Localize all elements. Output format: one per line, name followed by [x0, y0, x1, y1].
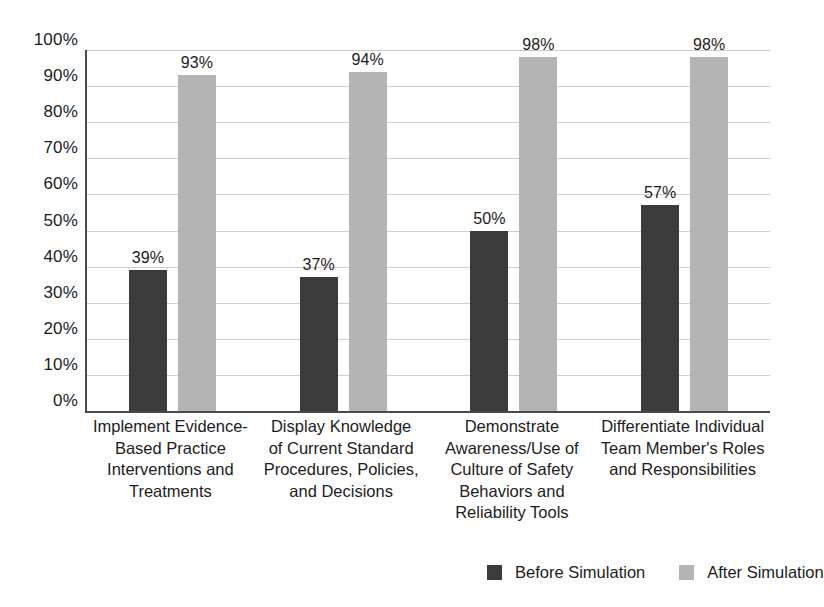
bar-before-simulation[interactable]: 39%: [129, 270, 167, 411]
bar-group: 50%98%: [429, 50, 600, 411]
bar-after-simulation[interactable]: 98%: [690, 57, 728, 411]
legend-item[interactable]: After Simulation: [679, 563, 823, 581]
y-axis-tick-label: 90%: [0, 66, 78, 86]
bar-before-simulation[interactable]: 37%: [300, 277, 338, 411]
y-axis: 0%10%20%30%40%50%60%70%80%90%100%: [0, 40, 78, 422]
legend-label: Before Simulation: [515, 563, 645, 581]
x-axis-category-label: DemonstrateAwareness/Use ofCulture of Sa…: [427, 416, 598, 524]
y-axis-tick-label: 30%: [0, 283, 78, 303]
bar-value-label: 37%: [303, 256, 335, 274]
plot-area: 39%93%37%94%50%98%57%98%: [85, 50, 770, 413]
category-label-line: Differentiate Individual: [597, 416, 768, 438]
bar-value-label: 98%: [693, 36, 725, 54]
category-label-line: and Decisions: [256, 481, 427, 503]
category-label-line: Display Knowledge: [256, 416, 427, 438]
bar-value-label: 98%: [522, 36, 554, 54]
x-axis-category-label: Differentiate IndividualTeam Member's Ro…: [597, 416, 768, 481]
y-axis-tick-label: 60%: [0, 174, 78, 194]
y-axis-tick-label: 0%: [0, 391, 78, 411]
x-axis-category-label: Display Knowledgeof Current StandardProc…: [256, 416, 427, 502]
category-label-line: Culture of Safety: [427, 459, 598, 481]
y-axis-tick-label: 10%: [0, 355, 78, 375]
x-axis-category-labels: Implement Evidence-Based PracticeInterve…: [85, 416, 768, 536]
bar-value-label: 39%: [132, 249, 164, 267]
category-label-line: Implement Evidence-: [85, 416, 256, 438]
category-label-line: Reliability Tools: [427, 502, 598, 524]
bar-before-simulation[interactable]: 57%: [641, 205, 679, 411]
legend-item[interactable]: Before Simulation: [487, 563, 645, 581]
legend-label: After Simulation: [707, 563, 823, 581]
category-label-line: Treatments: [85, 481, 256, 503]
y-axis-tick-label: 100%: [0, 30, 78, 50]
bar-after-simulation[interactable]: 93%: [178, 75, 216, 411]
bar-after-simulation[interactable]: 94%: [349, 72, 387, 411]
bar-value-label: 94%: [352, 51, 384, 69]
category-label-line: Team Member's Roles: [597, 438, 768, 460]
y-axis-tick-label: 80%: [0, 102, 78, 122]
legend-swatch-icon: [679, 565, 694, 580]
category-label-line: Interventions and: [85, 459, 256, 481]
legend-swatch-icon: [487, 565, 502, 580]
bar-value-label: 57%: [644, 184, 676, 202]
category-label-line: of Current Standard: [256, 438, 427, 460]
chart-legend: Before SimulationAfter Simulation: [487, 561, 824, 583]
bar-after-simulation[interactable]: 98%: [519, 57, 557, 411]
category-label-line: Demonstrate: [427, 416, 598, 438]
y-axis-tick-label: 70%: [0, 138, 78, 158]
bar-before-simulation[interactable]: 50%: [470, 231, 508, 412]
bar-group: 37%94%: [258, 50, 429, 411]
bar-group: 39%93%: [87, 50, 258, 411]
y-axis-tick-label: 50%: [0, 211, 78, 231]
bar-group: 57%98%: [599, 50, 770, 411]
bar-value-label: 50%: [473, 210, 505, 228]
category-label-line: Based Practice: [85, 438, 256, 460]
category-label-line: Behaviors and: [427, 481, 598, 503]
category-label-line: and Responsibilities: [597, 459, 768, 481]
x-axis-category-label: Implement Evidence-Based PracticeInterve…: [85, 416, 256, 502]
bar-value-label: 93%: [181, 54, 213, 72]
y-axis-tick-label: 20%: [0, 319, 78, 339]
bars-layer: 39%93%37%94%50%98%57%98%: [87, 50, 770, 411]
category-label-line: Awareness/Use of: [427, 438, 598, 460]
y-axis-tick-label: 40%: [0, 247, 78, 267]
category-label-line: Procedures, Policies,: [256, 459, 427, 481]
